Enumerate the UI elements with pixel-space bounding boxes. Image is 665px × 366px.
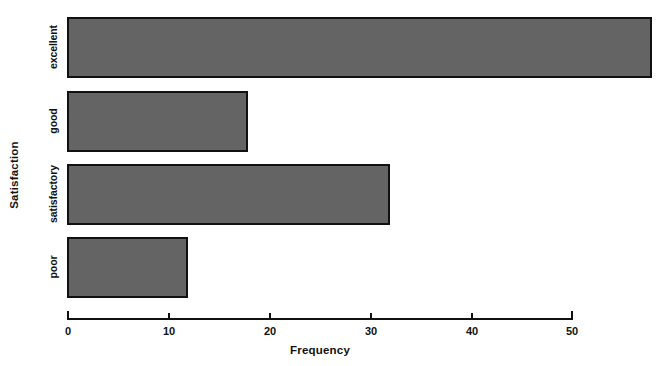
x-tick-40 [471, 313, 473, 320]
x-tick-label-40: 40 [452, 325, 492, 337]
bar-poor [67, 237, 188, 298]
x-tick-20 [269, 313, 271, 320]
x-tick-label-0: 0 [48, 325, 88, 337]
x-axis-cap-left [67, 311, 69, 320]
bar-excellent [67, 17, 652, 78]
bar-chart-figure: excellent good satisfactory poor Satisfa… [0, 0, 665, 366]
bar-good [67, 91, 248, 152]
plot-area: excellent good satisfactory poor Satisfa… [0, 0, 665, 366]
bar-satisfactory [67, 164, 390, 225]
x-axis-title: Frequency [220, 344, 420, 356]
x-axis-cap-right [571, 311, 573, 320]
x-tick-30 [370, 313, 372, 320]
y-axis-title: Satisfaction [8, 125, 20, 225]
x-axis-line [67, 318, 573, 320]
x-tick-label-30: 30 [351, 325, 391, 337]
y-tick-label-poor: poor [47, 222, 59, 312]
x-tick-10 [168, 313, 170, 320]
x-tick-label-10: 10 [149, 325, 189, 337]
x-tick-label-50: 50 [552, 325, 592, 337]
x-tick-label-20: 20 [250, 325, 290, 337]
